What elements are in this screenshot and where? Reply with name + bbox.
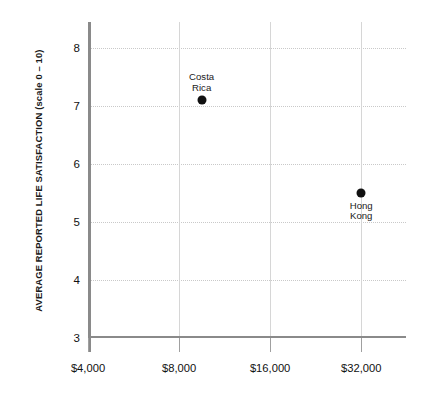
y-axis-tick-labels: 345678 — [48, 22, 80, 338]
x-axis-tick-mark — [88, 338, 89, 352]
gridline-vertical — [179, 22, 180, 338]
scatter-chart: AVERAGE REPORTED LIFE SATISFACTION (scal… — [0, 0, 426, 408]
x-axis-tick-mark — [179, 338, 180, 352]
gridline-horizontal — [88, 48, 406, 49]
y-axis-tick-label: 5 — [50, 216, 80, 228]
data-point — [357, 189, 366, 198]
x-axis-tick-label: $8,000 — [162, 362, 196, 374]
y-axis-tick-label: 4 — [50, 274, 80, 286]
gridline-horizontal — [88, 280, 406, 281]
x-axis-tick-label: $16,000 — [250, 362, 290, 374]
y-axis-tick-label: 6 — [50, 158, 80, 170]
x-axis-tick-mark — [361, 338, 362, 352]
gridline-horizontal — [88, 106, 406, 107]
x-axis-tick-label: $4,000 — [71, 362, 105, 374]
gridline-vertical — [270, 22, 271, 338]
plot-area: Costa RicaHong Kong — [88, 22, 406, 338]
x-axis-tick-mark — [270, 338, 271, 352]
y-axis-line — [88, 22, 91, 352]
data-point-label: Hong Kong — [339, 201, 384, 222]
gridline-vertical — [361, 22, 362, 338]
x-axis-line — [88, 336, 406, 338]
data-point — [197, 96, 206, 105]
y-axis-title: AVERAGE REPORTED LIFE SATISFACTION (scal… — [33, 21, 44, 341]
y-axis-tick-label: 3 — [50, 332, 80, 344]
y-axis-tick-label: 7 — [50, 100, 80, 112]
gridline-horizontal — [88, 164, 406, 165]
x-axis-tick-label: $32,000 — [341, 362, 381, 374]
x-axis-tick-labels: $4,000$8,000$16,000$32,000 — [88, 362, 406, 378]
y-axis-tick-label: 8 — [50, 42, 80, 54]
gridline-horizontal — [88, 222, 406, 223]
data-point-label: Costa Rica — [189, 73, 214, 94]
